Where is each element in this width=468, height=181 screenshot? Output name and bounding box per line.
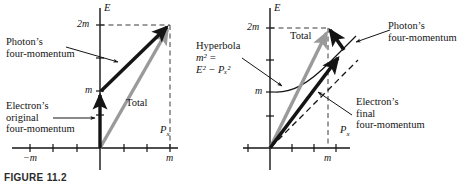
left-electron-label-line2: original [6, 112, 75, 124]
right-panel-vectors [270, 30, 344, 148]
left-electron-label-line3: four-momentum [6, 123, 75, 135]
left-total-label: Total [126, 97, 147, 108]
right-y-tick-2m: 2m [247, 21, 259, 32]
left-electron-label: Electron’s original four-momentum [6, 100, 75, 135]
right-electron-label-line3: four-momentum [356, 119, 425, 131]
hyperbola-leader [242, 58, 282, 86]
right-electron-label: Electron’s final four-momentum [356, 96, 425, 131]
hyperbola-equation: m² = E² − Pₓ² [196, 52, 230, 76]
photon-vector-left [101, 27, 167, 91]
photon-vector-right [330, 30, 344, 50]
right-photon-label-line1: Photon’s [388, 20, 457, 32]
total-vector-left [100, 30, 168, 148]
figure-caption: FIGURE 11.2 [4, 172, 67, 181]
right-electron-label-line2: final [356, 108, 425, 120]
left-y-axis-label: E [104, 2, 110, 13]
total-vector-right [270, 33, 327, 148]
left-y-tick-2m: 2m [77, 18, 89, 29]
left-y-tick-m: m [85, 84, 92, 95]
left-x-tick-m: m [166, 152, 173, 163]
right-y-tick-m: m [255, 85, 262, 96]
left-x-tick-minus-m: −m [23, 152, 37, 163]
left-photon-label-line2: four-momentum [6, 48, 75, 60]
left-electron-label-line1: Electron’s [6, 100, 75, 112]
electron-leader-right [318, 92, 352, 115]
figure-container: E Px 2m m −m m Photon’s four-momentum El… [0, 0, 468, 181]
hyperbola-label: Hyperbola [196, 40, 240, 52]
right-photon-label-line2: four-momentum [388, 32, 457, 44]
right-photon-label: Photon’s four-momentum [388, 20, 457, 43]
photon-leader-right [356, 30, 390, 42]
hyperbola-equation-line1: m² = [196, 52, 230, 64]
hyperbola-equation-line2: E² − Pₓ² [196, 64, 230, 76]
mass-hyperbola-curve [274, 36, 356, 92]
right-electron-label-line1: Electron’s [356, 96, 425, 108]
left-photon-label-line1: Photon’s [6, 36, 75, 48]
right-total-label: Total [290, 30, 311, 41]
left-panel-axes [12, 8, 178, 170]
left-panel-vectors [100, 27, 168, 148]
right-x-axis-label: Px [340, 124, 350, 138]
right-x-tick-m: m [324, 152, 331, 163]
left-photon-label: Photon’s four-momentum [6, 36, 75, 59]
right-y-axis-label: E [274, 2, 280, 13]
left-x-axis-label: Px [160, 124, 170, 138]
